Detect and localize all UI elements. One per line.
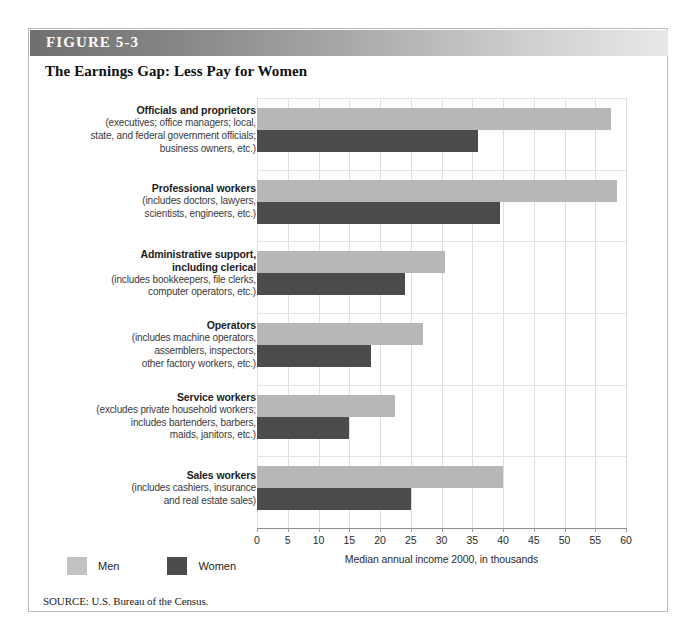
category-name-line: Service workers [41,391,256,404]
figure-header-band: FIGURE 5-3 [30,30,668,56]
x-axis-tick [442,528,443,532]
horizontal-gridline [257,456,626,457]
category-name-line: Professional workers [41,182,256,195]
x-axis-tick-label: 40 [497,534,509,546]
bar-men [257,180,617,202]
bar-men [257,108,611,130]
x-axis-tick [380,528,381,532]
category-label-block: Officials and proprietors(executives; of… [41,104,256,155]
x-axis-tick-label: 55 [589,534,601,546]
figure-number-label: FIGURE 5-3 [46,34,139,51]
legend-label-women: Women [198,560,236,572]
x-axis-tick [319,528,320,532]
bar-women [257,417,349,439]
x-axis-tick-label: 45 [528,534,540,546]
plot-area [257,98,626,528]
category-label-block: Operators(includes machine operators,ass… [41,319,256,370]
x-axis-tick [257,528,258,532]
category-name-line: including clerical [41,261,256,274]
bar-men [257,395,395,417]
category-description-line: assemblers, inspectors, [41,345,256,358]
bar-men [257,466,503,488]
bar-men [257,251,445,273]
x-axis-title: Median annual income 2000, in thousands [257,553,626,565]
category-description-line: and real estate sales) [41,495,256,508]
bar-women [257,488,411,510]
category-description-line: (includes doctors, lawyers, [41,195,256,208]
x-axis-tick-label: 20 [374,534,386,546]
x-axis-tick-label: 30 [436,534,448,546]
category-description-line: includes bartenders, barbers, [41,417,256,430]
horizontal-gridline [257,170,626,171]
horizontal-gridline [257,98,626,99]
x-axis-tick-label: 60 [620,534,632,546]
bar-women [257,273,405,295]
x-axis-tick [565,528,566,532]
category-description-line: (includes cashiers, insurance [41,482,256,495]
legend-swatch-women-icon [167,557,187,575]
category-label-block: Service workers(excludes private househo… [41,391,256,442]
bar-women [257,130,478,152]
x-axis-tick-label: 15 [343,534,355,546]
x-axis-tick [472,528,473,532]
x-axis-tick [349,528,350,532]
category-description-line: business owners, etc.) [41,143,256,156]
category-label-block: Administrative support,including clerica… [41,248,256,299]
category-name-line: Sales workers [41,469,256,482]
category-name-line: Administrative support, [41,248,256,261]
x-axis-tick [411,528,412,532]
legend-label-men: Men [98,560,119,572]
x-axis-tick-label: 25 [405,534,417,546]
category-label-block: Sales workers(includes cashiers, insuran… [41,469,256,507]
legend-item-women: Women [167,557,236,575]
legend: Men Women [67,557,284,575]
chart-title: The Earnings Gap: Less Pay for Women [45,63,307,80]
category-description-line: other factory workers, etc.) [41,358,256,371]
category-description-line: (excludes private household workers; [41,404,256,417]
x-axis-tick-label: 0 [254,534,260,546]
x-axis-tick [534,528,535,532]
category-description-line: (includes bookkeepers, file clerks, [41,274,256,287]
bar-men [257,323,423,345]
legend-item-men: Men [67,557,119,575]
category-name-line: Operators [41,319,256,332]
x-axis-tick [503,528,504,532]
x-axis-tick [595,528,596,532]
x-axis-tick [626,528,627,532]
category-description-line: state, and federal government officials; [41,130,256,143]
x-axis-tick [288,528,289,532]
category-label-block: Professional workers(includes doctors, l… [41,182,256,220]
bar-women [257,202,500,224]
category-description-line: maids, janitors, etc.) [41,429,256,442]
x-axis-tick-label: 5 [285,534,291,546]
figure-container: FIGURE 5-3 The Earnings Gap: Less Pay fo… [28,28,668,612]
x-axis-tick-label: 35 [466,534,478,546]
bar-women [257,345,371,367]
legend-swatch-men-icon [67,557,87,575]
vertical-gridline [626,98,627,528]
category-description-line: (executives; office managers; local, [41,117,256,130]
x-axis-tick-label: 50 [559,534,571,546]
horizontal-gridline [257,241,626,242]
category-description-line: scientists, engineers, etc.) [41,208,256,221]
horizontal-gridline [257,385,626,386]
category-description-line: (includes machine operators, [41,332,256,345]
x-axis-tick-label: 10 [313,534,325,546]
plot-wrapper: Officials and proprietors(executives; of… [29,98,667,543]
category-name-line: Officials and proprietors [41,104,256,117]
category-description-line: computer operators, etc.) [41,286,256,299]
source-note: SOURCE: U.S. Bureau of the Census. [43,595,208,607]
horizontal-gridline [257,313,626,314]
